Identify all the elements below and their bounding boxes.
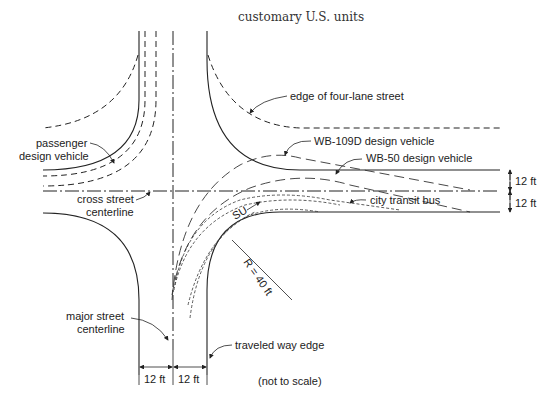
edge-four-lane-label: edge of four-lane street (290, 90, 404, 102)
dim-bottom-left: 12 ft (144, 373, 165, 385)
major-street-label-1: major street (66, 310, 124, 322)
radius-label: R = 40 ft (241, 256, 275, 297)
cross-street-label-1: cross street (77, 193, 134, 205)
su-label: SU (230, 204, 249, 222)
lower-left-edge (43, 213, 139, 375)
city-transit-bus-label: city transit bus (370, 194, 441, 206)
dim-bottom-right: 12 ft (178, 373, 199, 385)
wb109d-label: WB-109D design vehicle (314, 135, 434, 147)
dim-right-upper: 12 ft (515, 175, 536, 187)
dim-right-lower: 12 ft (515, 197, 536, 209)
major-street-label-2: centerline (77, 323, 125, 335)
passenger-label-1: passenger (36, 137, 88, 149)
passenger-label-2: design vehicle (19, 150, 89, 162)
traveled-way-label: traveled way edge (235, 339, 324, 351)
diagram-title: customary U.S. units (238, 10, 364, 24)
cross-street-label-2: centerline (86, 206, 134, 218)
intersection-diagram: customary U.S. units R = 40 ft edge of f… (0, 0, 554, 399)
not-to-scale-note: (not to scale) (258, 375, 322, 387)
wb109d-path (172, 155, 470, 300)
wb50-label: WB-50 design vehicle (366, 152, 472, 164)
passenger-path (43, 55, 138, 128)
